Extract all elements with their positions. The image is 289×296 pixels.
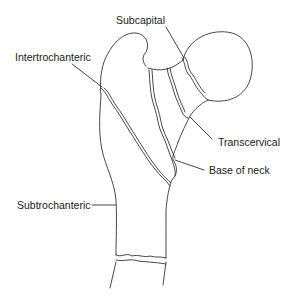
- transcervical-fracture-2: [170, 68, 185, 112]
- leader-transcervical: [190, 117, 212, 139]
- shaft-right-edge: [163, 262, 166, 285]
- subtrochanteric-fracture: [116, 255, 166, 258]
- leader-intertrochanteric: [72, 64, 102, 87]
- subcapital-fracture-2: [185, 57, 205, 93]
- neck-upper-edge: [148, 60, 183, 70]
- femoral-head: [183, 32, 252, 101]
- label-subcapital: Subcapital: [116, 14, 165, 26]
- shaft-left-edge: [110, 262, 116, 288]
- femur-fracture-diagram: Subcapital Intertrochanteric Transcervic…: [0, 0, 289, 296]
- leader-subcapital: [166, 27, 184, 58]
- label-intertrochanteric: Intertrochanteric: [15, 51, 91, 63]
- femur-illustration: [0, 0, 289, 296]
- leader-base-of-neck: [175, 160, 204, 170]
- label-subtrochanteric: Subtrochanteric: [17, 199, 91, 211]
- subtrochanteric-fracture-2: [116, 260, 166, 264]
- label-base-of-neck: Base of neck: [209, 164, 270, 176]
- intertrochanteric-fracture-2: [104, 88, 171, 183]
- label-transcervical: Transcervical: [218, 136, 280, 148]
